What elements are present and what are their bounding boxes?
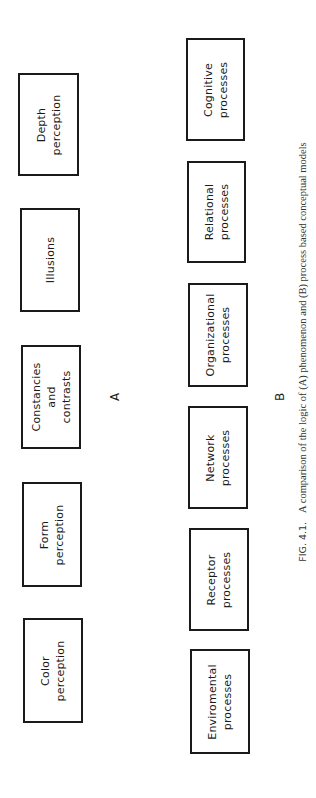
box-enviromental-processes: Enviromental processes (190, 649, 250, 754)
figure-number: FIG. 4.1. (297, 522, 308, 562)
caption-text: A comparison of the logic of (A) phenome… (297, 142, 308, 513)
box-label: Color perception (38, 640, 68, 701)
box-cognitive-processes: Cognitive processes (186, 38, 245, 141)
figure-caption: FIG. 4.1.A comparison of the logic of (A… (297, 142, 308, 561)
box-depth-perception: Depth perception (18, 73, 79, 176)
box-label: Illusions (43, 237, 58, 283)
box-receptor-processes: Receptor processes (189, 528, 249, 631)
box-label: Network processes (203, 429, 233, 486)
box-label: Receptor processes (204, 551, 234, 608)
box-label: Cognitive processes (201, 61, 231, 118)
box-label: Relational processes (202, 184, 232, 241)
row-a-label: A (108, 393, 122, 401)
box-label: Enviromental processes (205, 664, 235, 739)
box-label: Constancies and contrasts (29, 363, 74, 432)
box-label: Depth perception (34, 94, 64, 155)
box-organizational-processes: Organizational processes (188, 283, 248, 387)
row-b-label: B (273, 393, 287, 401)
box-label: Organizational processes (203, 294, 233, 377)
box-relational-processes: Relational processes (187, 161, 246, 263)
box-illusions: Illusions (20, 208, 80, 312)
box-constancies-and-contrasts: Constancies and contrasts (21, 345, 81, 449)
box-form-perception: Form perception (22, 482, 82, 587)
box-color-perception: Color perception (23, 618, 83, 723)
box-label: Form perception (37, 504, 67, 565)
box-network-processes: Network processes (188, 406, 248, 509)
